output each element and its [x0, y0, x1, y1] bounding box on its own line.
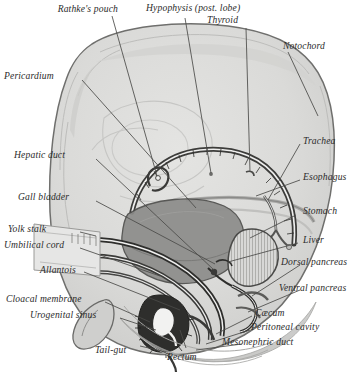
- label-caecum: Cæcum: [255, 308, 285, 318]
- label-mesonephric-duct: Mesonephric duct: [222, 337, 293, 347]
- label-liver: Liver: [303, 235, 324, 245]
- label-tail-gut: Tail-gut: [95, 345, 126, 355]
- label-notochord: Notochord: [283, 41, 325, 51]
- label-thyroid: Thyroid: [207, 15, 238, 25]
- label-allantois: Allantois: [40, 265, 76, 275]
- label-trachea: Trachea: [303, 136, 336, 146]
- illustration-plate: Rathke's pouch Hypophysis (post. lobe) T…: [0, 0, 361, 373]
- label-gall-bladder: Gall bladder: [18, 192, 69, 202]
- label-esophagus: Esophagus: [303, 172, 346, 182]
- label-yolk-stalk: Yolk stalk: [8, 224, 46, 234]
- label-hepatic-duct: Hepatic duct: [14, 150, 65, 160]
- label-rathkes-pouch: Rathke's pouch: [46, 4, 118, 14]
- label-cloacal-membrane: Cloacal membrane: [6, 294, 82, 304]
- label-hypophysis: Hypophysis (post. lobe): [146, 3, 240, 13]
- label-stomach: Stomach: [303, 206, 337, 216]
- label-ventral-pancreas: Ventral pancreas: [279, 283, 346, 293]
- label-umbilical-cord: Umbilical cord: [4, 240, 64, 250]
- label-rectum: Rectum: [167, 352, 197, 362]
- label-urogenital-sinus: Urogenital sinus: [30, 310, 96, 320]
- label-pericardium: Pericardium: [4, 71, 54, 81]
- label-dorsal-pancreas: Dorsal pancreas: [281, 257, 347, 267]
- label-peritoneal-cavity: Peritoneal cavity: [251, 322, 319, 332]
